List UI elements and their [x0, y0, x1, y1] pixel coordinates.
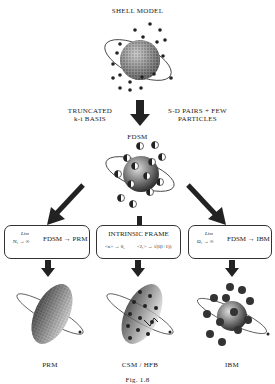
fdsm-nucleus-icon — [0, 140, 275, 220]
limit-condition: N₁ → ∞ — [13, 239, 29, 244]
prm-ellipsoid-icon — [10, 282, 90, 357]
fdsm-ibm-result: FDSM → IBM — [227, 235, 270, 243]
sd-pairs-label-line1: S-D PAIRS + FEW — [160, 107, 235, 115]
truncated-basis-label: TRUNCATED k-i BASIS — [55, 107, 125, 123]
ibm-limit-box: Lim Ω₁ → ∞ FDSM → IBM — [188, 225, 272, 259]
intrinsic-frame-title: INTRINSIC FRAME — [97, 230, 180, 238]
down-arrow-prm-icon — [41, 260, 55, 278]
prm-label: PRM — [10, 361, 90, 369]
ibm-nucleus-icon — [192, 282, 272, 357]
lim-label: Lim — [205, 231, 213, 236]
truncated-label-line1: TRUNCATED — [55, 107, 125, 115]
down-arrow-ibm-icon — [225, 260, 239, 278]
down-arrow-csm-icon — [131, 260, 145, 278]
sd-pairs-label: S-D PAIRS + FEW PARTICLES — [160, 107, 235, 123]
ibm-label: IBM — [192, 361, 272, 369]
csm-hfb-ellipsoid-icon — [100, 282, 180, 357]
intrinsic-formula-left: <n> → 0, — [105, 244, 124, 249]
lim-label: Lim — [21, 231, 29, 236]
figure-caption: Fig. 1.8 — [0, 376, 275, 384]
fdsm-prm-result: FDSM → PRM — [43, 235, 87, 243]
limit-condition: Ω₁ → ∞ — [197, 239, 214, 244]
prm-limit-box: Lim N₁ → ∞ FDSM → PRM — [4, 225, 90, 259]
intrinsic-frame-box: INTRINSIC FRAME <n> → 0, <J₁> → √(l(l+1)… — [96, 225, 181, 259]
intrinsic-formula-right: <J₁> → √(l(l+1)) — [137, 244, 171, 249]
sd-pairs-label-line2: PARTICLES — [160, 115, 235, 123]
truncated-label-line2: k-i BASIS — [55, 115, 125, 123]
csm-hfb-label: CSM / HFB — [100, 361, 180, 369]
down-arrow-icon — [130, 100, 150, 130]
